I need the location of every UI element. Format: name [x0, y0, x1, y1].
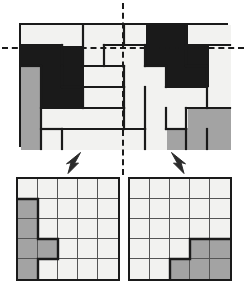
- right-half-grid: [128, 177, 232, 281]
- arrow-to-left-grid: [60, 150, 86, 176]
- left-half-grid: [16, 177, 120, 281]
- left-half-grid-region-outline: [18, 179, 118, 279]
- arrow-to-right-grid: [166, 150, 192, 176]
- right-half-grid-region-outline: [130, 179, 230, 279]
- figure-canvas: [0, 0, 246, 294]
- vertical-symmetry-axis: [122, 3, 124, 175]
- main-board-piece-outlines: [21, 25, 230, 149]
